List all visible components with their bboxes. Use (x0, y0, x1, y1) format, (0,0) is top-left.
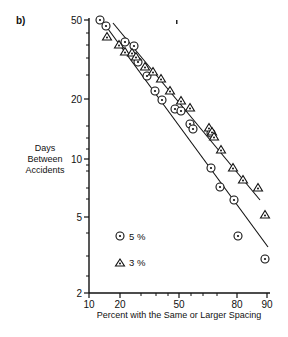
circle-point (207, 164, 215, 172)
triangle-point (157, 75, 166, 83)
y-tick-label: 50 (71, 15, 83, 26)
x-tick-label: 10 (83, 299, 95, 310)
circle-point (261, 255, 269, 263)
triangle-point (149, 68, 158, 76)
x-tick-label: 50 (173, 299, 185, 310)
y-tick-label: 10 (71, 154, 83, 165)
triangle-point (261, 211, 270, 219)
circle-point (158, 96, 166, 104)
y-ticks: 50201052 (71, 15, 89, 299)
x-tick-label: 20 (114, 299, 126, 310)
legend-label-5pct: 5 % (129, 231, 146, 242)
x-ticks: 1020508090 (83, 293, 273, 310)
circle-dot-icon (116, 232, 124, 240)
circle-point (102, 22, 110, 30)
y-tick-label: 5 (76, 212, 82, 223)
triangle-point (186, 104, 195, 112)
y-tick-label: 20 (71, 94, 83, 105)
x-tick-label: 80 (231, 299, 243, 310)
triangle-point (229, 164, 238, 172)
y-tick-label: 2 (76, 288, 82, 299)
triangle-point (239, 176, 248, 184)
axes: 50201052 1020508090 (71, 15, 273, 310)
x-tick-label: 90 (261, 299, 273, 310)
triangle-dot-icon (116, 259, 125, 266)
circle-point (230, 196, 238, 204)
circle-point (189, 125, 197, 133)
scatter-plot: 50201052 1020508090 5 % 3 % (0, 0, 288, 337)
triangle-point (254, 184, 263, 192)
circle-point (177, 107, 185, 115)
circle-point (234, 232, 242, 240)
circle-point (216, 183, 224, 191)
data-points (96, 16, 270, 263)
circle-point (151, 87, 159, 95)
triangle-point (103, 33, 112, 41)
legend-item-5pct: 5 % (116, 231, 146, 242)
legend-label-3pct: 3 % (129, 257, 146, 268)
legend-item-3pct: 3 % (116, 257, 146, 268)
stray-mark (176, 20, 178, 24)
legend: 5 % 3 % (116, 231, 146, 268)
